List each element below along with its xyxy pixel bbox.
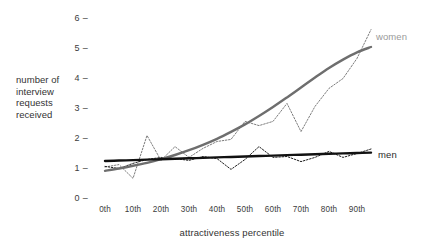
plot-area (0, 0, 432, 248)
men-trend-curve (105, 153, 371, 161)
chart-figure: number of interview requests received 6 … (0, 0, 432, 248)
series-group (105, 30, 371, 179)
men-observed-line (105, 147, 371, 170)
